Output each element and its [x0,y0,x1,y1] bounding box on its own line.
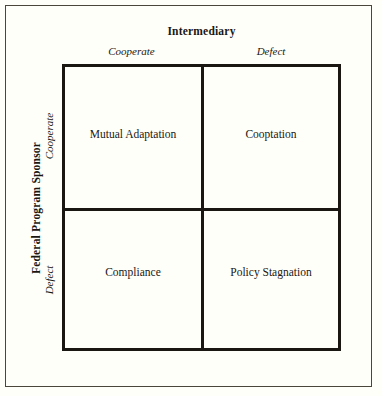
matrix-cell-defect-defect: Policy Stagnation [204,211,338,348]
matrix-cell-cooperate-cooperate: Mutual Adaptation [65,67,201,208]
column-axis-title: Intermediary [62,25,341,37]
column-label-defect: Defect [201,45,341,57]
matrix-cell-label: Policy Stagnation [224,265,317,280]
matrix-cell-label: Compliance [99,265,167,280]
matrix-cell-cooperate-defect: Cooptation [204,67,338,208]
matrix-box: Mutual Adaptation Cooptation Compliance … [62,64,341,351]
matrix-cell-defect-cooperate: Compliance [65,211,201,348]
matrix-cell-label: Cooptation [239,127,302,142]
matrix-inner: Mutual Adaptation Cooptation Compliance … [65,67,338,348]
row-label-defect: Defect [43,215,55,345]
payoff-matrix-figure: Intermediary Cooperate Defect Federal Pr… [0,0,382,396]
matrix-cell-label: Mutual Adaptation [84,127,183,142]
row-axis-title: Federal Program Sponsor [30,98,42,318]
row-label-cooperate: Cooperate [43,71,55,201]
column-label-cooperate: Cooperate [62,45,201,57]
